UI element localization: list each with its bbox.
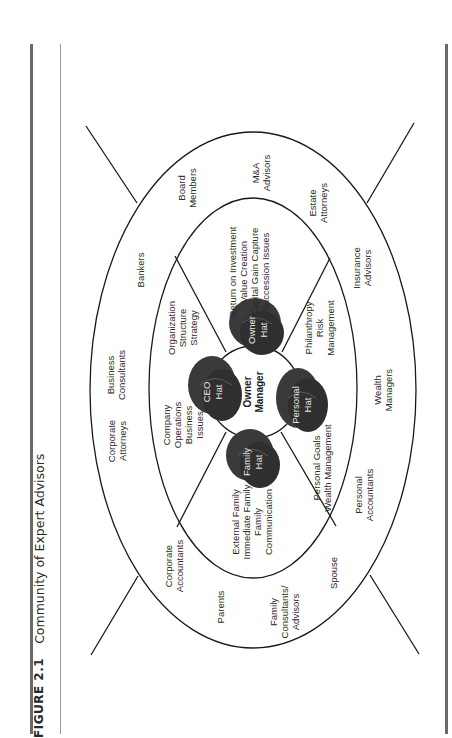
label-estate-attorneys: Estate Attorneys xyxy=(307,183,329,223)
outer-diagonal-bottom-left xyxy=(91,576,138,655)
label-philanthropy-risk: Philanthropy Risk Management xyxy=(303,300,336,356)
svg-text:Managers: Managers xyxy=(383,369,394,411)
svg-text:Hat: Hat xyxy=(253,454,264,469)
svg-text:Business: Business xyxy=(105,355,116,394)
svg-text:Return on Investment: Return on Investment xyxy=(227,226,238,317)
advisors-diagram: CEO Hat Owner Hat Personal Hat Family Ha… xyxy=(0,0,452,738)
svg-text:Risk: Risk xyxy=(314,319,325,338)
svg-text:Value Creation: Value Creation xyxy=(238,241,249,303)
label-corporate-accountants: Corporate Accountants xyxy=(163,540,185,593)
svg-text:Family: Family xyxy=(268,598,279,626)
label-ma-advisors: M&A Advisors xyxy=(250,155,272,192)
label-bankers: Bankers xyxy=(135,252,146,287)
svg-text:Attorneys: Attorneys xyxy=(117,421,128,461)
svg-text:Philanthropy: Philanthropy xyxy=(303,301,314,354)
svg-text:Family: Family xyxy=(252,508,263,536)
svg-text:Spouse: Spouse xyxy=(328,557,339,589)
label-board-members: Board Members xyxy=(176,168,198,208)
svg-text:Structure: Structure xyxy=(177,309,188,348)
svg-text:Operations: Operations xyxy=(172,402,183,449)
svg-text:Advisors: Advisors xyxy=(261,155,272,192)
svg-text:Business: Business xyxy=(183,405,194,444)
svg-text:Parents: Parents xyxy=(215,590,226,623)
svg-text:Immediate Family: Immediate Family xyxy=(241,484,252,559)
label-insurance-advisors: Insurance Advisors xyxy=(351,247,373,289)
label-personal-goals: Personal Goals Wealth Management xyxy=(311,424,333,512)
svg-text:Advisors: Advisors xyxy=(290,594,301,631)
outer-ellipse xyxy=(90,132,416,648)
label-external-family: External Family Immediate Family Family … xyxy=(230,484,274,559)
svg-text:Bankers: Bankers xyxy=(135,252,146,287)
label-spouse: Spouse xyxy=(328,557,339,589)
svg-text:Organization: Organization xyxy=(166,301,177,355)
svg-text:Company: Company xyxy=(161,404,172,445)
svg-text:Wealth: Wealth xyxy=(372,375,383,404)
svg-text:Management: Management xyxy=(325,300,336,356)
svg-text:Corporate: Corporate xyxy=(106,420,117,462)
svg-text:Advisors: Advisors xyxy=(362,250,373,287)
label-personal-accountants: Personal Accountants xyxy=(353,469,375,522)
svg-text:Attorneys: Attorneys xyxy=(318,183,329,223)
svg-text:Wealth Management: Wealth Management xyxy=(322,424,333,512)
svg-text:Consultants: Consultants xyxy=(116,350,127,400)
svg-text:Owner: Owner xyxy=(246,316,257,344)
svg-text:Estate: Estate xyxy=(307,190,318,217)
svg-text:Personal Goals: Personal Goals xyxy=(311,435,322,500)
svg-text:Board: Board xyxy=(176,175,187,200)
svg-text:Family: Family xyxy=(241,448,252,476)
svg-text:Members: Members xyxy=(187,168,198,208)
svg-text:Insurance: Insurance xyxy=(351,247,362,289)
label-family-consultants: Family Consultants/ Advisors xyxy=(268,585,301,638)
label-return-on-investment: Return on Investment Value Creation Capi… xyxy=(227,226,271,317)
hat-label-ceo: CEO Hat xyxy=(201,382,224,403)
svg-text:CEO: CEO xyxy=(201,382,212,403)
label-corporate-attorneys: Corporate Attorneys xyxy=(106,420,128,462)
svg-text:Strategy: Strategy xyxy=(188,310,199,346)
svg-text:Capital Gain Capture: Capital Gain Capture xyxy=(249,228,260,317)
svg-text:Hat: Hat xyxy=(213,384,224,399)
svg-text:Hat: Hat xyxy=(302,397,313,412)
label-business-consultants: Business Consultants xyxy=(105,350,127,400)
label-parents: Parents xyxy=(215,590,226,623)
svg-text:Personal: Personal xyxy=(290,386,301,424)
svg-text:Accountants: Accountants xyxy=(174,540,185,593)
outer-diagonal-top-right xyxy=(367,123,414,203)
svg-text:Corporate: Corporate xyxy=(163,545,174,587)
svg-text:External Family: External Family xyxy=(230,489,241,555)
label-wealth-managers: Wealth Managers xyxy=(372,369,394,411)
svg-text:Personal: Personal xyxy=(353,476,364,514)
svg-text:M&A: M&A xyxy=(250,162,261,183)
svg-text:Issues: Issues xyxy=(194,411,205,439)
label-organization-structure: Organization Structure Strategy xyxy=(166,301,199,355)
svg-text:Owner: Owner xyxy=(242,376,253,407)
center-label: Owner Manager xyxy=(242,371,265,412)
inner-diagonal-bl xyxy=(177,432,226,527)
svg-text:Succession Issues: Succession Issues xyxy=(260,232,271,311)
svg-text:Communication: Communication xyxy=(263,489,274,555)
svg-text:Hat: Hat xyxy=(258,322,269,337)
svg-text:Manager: Manager xyxy=(254,371,265,412)
svg-text:Accountants: Accountants xyxy=(364,469,375,522)
outer-diagonal-bottom-right xyxy=(370,575,419,654)
outer-diagonal-top-left xyxy=(86,126,137,203)
svg-text:Consultants/: Consultants/ xyxy=(279,585,290,638)
